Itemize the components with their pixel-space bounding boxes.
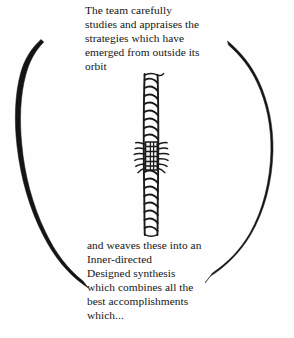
twisted-rope-cord xyxy=(124,72,182,238)
rope-top-cap xyxy=(144,74,163,76)
rope-twist-upper xyxy=(144,79,158,139)
diagram-canvas: The team carefully studies and appraises… xyxy=(0,0,294,338)
rope-knot-binding xyxy=(134,142,168,173)
caption-top: The team carefully studies and appraises… xyxy=(85,3,235,73)
caption-bottom: and weaves these into an Inner-directed … xyxy=(87,238,239,323)
rope-twist-lower xyxy=(144,171,158,231)
rope-bottom-cap xyxy=(145,235,158,237)
left-arc xyxy=(15,40,88,289)
knot-binding-lines xyxy=(146,143,157,170)
